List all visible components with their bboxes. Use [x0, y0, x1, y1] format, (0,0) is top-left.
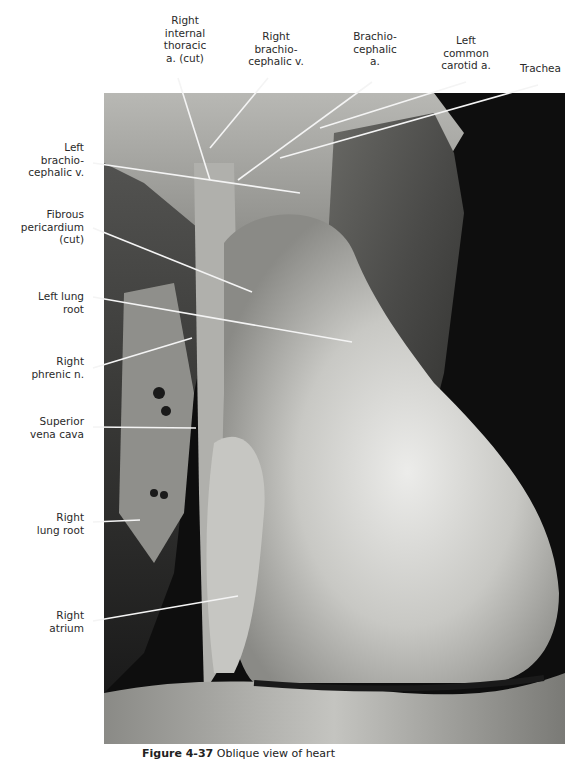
figure-caption-text: Oblique view of heart: [217, 747, 335, 760]
figure-caption: Figure 4-37 Oblique view of heart: [142, 747, 335, 760]
label-brachiocephalic-a: Brachio- cephalic a.: [345, 30, 405, 68]
label-right-internal-thoracic: Right internal thoracic a. (cut): [150, 14, 220, 64]
label-trachea: Trachea: [520, 62, 561, 75]
label-left-common-carotid: Left common carotid a.: [432, 34, 500, 72]
label-right-atrium: Right atrium: [0, 609, 84, 634]
label-right-brachiocephalic-v: Right brachio- cephalic v.: [240, 30, 312, 68]
label-left-brachiocephalic-v: Left brachio- cephalic v.: [0, 141, 84, 179]
label-fibrous-pericardium: Fibrous pericardium (cut): [0, 208, 84, 246]
dissection-photograph: [104, 93, 565, 744]
label-right-phrenic-n: Right phrenic n.: [0, 355, 84, 380]
heart-dissection-image: [104, 93, 565, 744]
label-right-lung-root: Right lung root: [0, 511, 84, 536]
figure-number: Figure 4-37: [142, 747, 213, 760]
label-left-lung-root: Left lung root: [0, 290, 84, 315]
label-superior-vena-cava: Superior vena cava: [0, 415, 84, 440]
